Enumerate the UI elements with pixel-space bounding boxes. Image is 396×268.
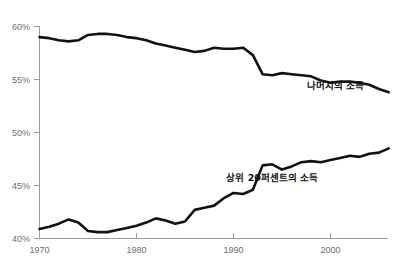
x-tick-label-1990: 1990	[223, 245, 243, 255]
y-tick-label-45: 45%	[12, 181, 30, 191]
y-tick-label-40: 40%	[12, 234, 30, 244]
series-label-rest-income: 나머지의 소득	[307, 80, 364, 91]
chart-container: 60% 55% 50% 45% 40% 1970 1980 1990 2000 …	[0, 0, 396, 268]
x-tick-label-1970: 1970	[29, 245, 49, 255]
y-tick-label-50: 50%	[12, 128, 30, 138]
y-tick-label-60: 60%	[12, 22, 30, 32]
x-tick-label-2000: 2000	[320, 245, 340, 255]
income-share-line-chart: 60% 55% 50% 45% 40% 1970 1980 1990 2000 …	[0, 0, 396, 268]
series-label-top20-income: 상위 20퍼센트의 소득	[226, 172, 318, 183]
y-tick-label-55: 55%	[12, 75, 30, 85]
x-tick-label-1980: 1980	[126, 245, 146, 255]
